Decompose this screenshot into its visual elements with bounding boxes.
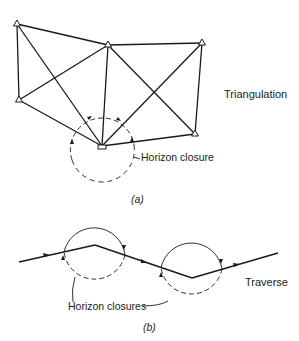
triangulation-diagram <box>0 0 299 341</box>
horizon-closure-circle-1 <box>64 228 125 279</box>
triangulation-label: Triangulation <box>224 88 287 100</box>
triangulation-network <box>17 24 202 146</box>
station-triangle-icon <box>199 39 206 45</box>
horizon-closure-circle-2 <box>161 243 222 294</box>
station-triangle-icon <box>14 20 21 26</box>
horizon-closure-circle <box>70 118 134 182</box>
traverse-arrow-icons <box>43 253 240 267</box>
horizon-closure-label: Horizon closure <box>141 151 214 163</box>
leader-line-1 <box>72 277 75 302</box>
leader-line <box>134 157 140 159</box>
station-icons <box>14 20 206 149</box>
horizon-closures-label: Horizon closures <box>68 300 146 312</box>
traverse-line <box>19 245 278 278</box>
traverse-label: Traverse <box>245 276 288 288</box>
caption-b: (b) <box>143 321 156 333</box>
caption-a: (a) <box>131 193 144 205</box>
station-base-icon <box>98 145 106 149</box>
